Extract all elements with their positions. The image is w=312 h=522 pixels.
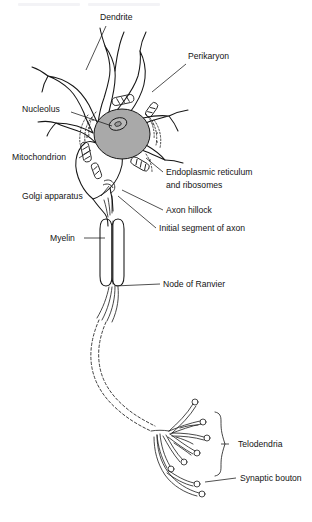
- hillock-striation-3: [104, 200, 108, 217]
- synaptic-bouton-3: [204, 435, 210, 441]
- figure-page: Dendrite Perikaryon Nucleolus Mitochondr…: [0, 0, 312, 522]
- axon-distal-group: [91, 287, 155, 431]
- axon-hillock-right: [93, 199, 108, 226]
- label-text-group: Dendrite Perikaryon Nucleolus Mitochondr…: [12, 12, 302, 483]
- telodendria-group: [151, 399, 210, 497]
- myelin-sheath-group: [100, 219, 124, 286]
- er-arc-right-2: [154, 120, 161, 148]
- axon-dashed-upper: [91, 320, 151, 431]
- neuron-diagram: Dendrite Perikaryon Nucleolus Mitochondr…: [0, 0, 312, 522]
- mitochondrion-top: [111, 94, 134, 106]
- dendrite-fork-top: [115, 32, 124, 71]
- telodendron-7b: [154, 437, 197, 496]
- nucleus: [94, 109, 150, 159]
- hillock-striation-2: [108, 198, 110, 215]
- axon-fiber-2: [102, 287, 112, 320]
- synaptic-bouton-1: [192, 399, 198, 405]
- label-endoplasmic-reticulum-line1: Endoplasmic reticulum: [166, 167, 252, 177]
- synaptic-bouton-4: [194, 450, 200, 456]
- synaptic-bouton-2: [200, 419, 206, 425]
- leader-axon-hillock: [122, 190, 163, 210]
- leader-golgi: [101, 186, 109, 196]
- telodendria-trunk: [151, 430, 169, 431]
- label-golgi-apparatus: Golgi apparatus: [22, 191, 83, 201]
- synaptic-bouton-5: [181, 459, 187, 465]
- er-arc-right-1: [150, 118, 157, 145]
- label-endoplasmic-reticulum-line2: and ribosomes: [166, 180, 222, 190]
- dendrite-fork-upper-left: [32, 67, 48, 92]
- label-dendrite: Dendrite: [100, 12, 133, 22]
- label-mitochondrion: Mitochondrion: [12, 152, 66, 162]
- label-node-of-ranvier: Node of Ranvier: [163, 279, 225, 289]
- dendrite-fork-top-right: [140, 32, 146, 51]
- label-myelin: Myelin: [50, 233, 75, 243]
- axon-fiber-1: [97, 287, 109, 318]
- myelin-segment-left: [100, 219, 112, 286]
- mitochondrion-left-lower: [90, 162, 102, 179]
- label-initial-segment-of-axon: Initial segment of axon: [159, 223, 245, 233]
- leader-perikaryon: [152, 64, 186, 92]
- telodendron-stub-2: [174, 443, 191, 455]
- dendrite-fork-lower-right: [165, 160, 183, 163]
- leader-dendrite: [86, 26, 106, 70]
- leader-lines: [71, 26, 236, 482]
- synaptic-bouton-8: [194, 481, 200, 487]
- label-synaptic-bouton: Synaptic bouton: [240, 473, 302, 483]
- telodendron-2: [169, 421, 200, 431]
- synaptic-bouton-7: [199, 491, 205, 497]
- dendrite-fork-right: [169, 110, 188, 131]
- label-nucleolus: Nucleolus: [22, 104, 60, 114]
- leader-synaptic-bouton: [205, 478, 236, 482]
- nucleus-group: [94, 109, 150, 159]
- mitochondrion-lower-right: [129, 156, 150, 173]
- mitochondrion-left: [80, 141, 92, 162]
- myelin-segment-right: [112, 219, 124, 286]
- golgi-cisterna-1: [104, 180, 115, 193]
- label-telodendria: Telodendria: [238, 439, 283, 449]
- axon-dashed-lower: [99, 322, 155, 426]
- label-axon-hillock: Axon hillock: [166, 205, 213, 215]
- dendrite-fork-left: [38, 121, 56, 136]
- label-perikaryon: Perikaryon: [188, 51, 229, 61]
